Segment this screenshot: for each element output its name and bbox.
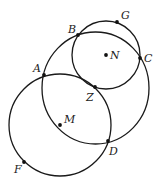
label-d: D (108, 145, 118, 158)
point-n (104, 53, 108, 57)
geometry-diagram: ABGNCZMDF (0, 0, 157, 187)
point-b (76, 33, 80, 37)
label-c: C (144, 52, 153, 65)
label-m: M (63, 113, 76, 126)
point-m (58, 123, 62, 127)
circles-group (9, 21, 149, 176)
point-d (106, 139, 110, 143)
point-f (22, 160, 26, 164)
point-a (42, 73, 46, 77)
label-a: A (32, 62, 41, 75)
label-z: Z (85, 91, 94, 104)
point-c (138, 56, 142, 60)
point-g (115, 20, 119, 24)
label-g: G (121, 9, 130, 22)
label-n: N (109, 49, 120, 62)
label-f: F (13, 163, 22, 176)
point-z (93, 85, 97, 89)
label-b: B (67, 23, 76, 36)
